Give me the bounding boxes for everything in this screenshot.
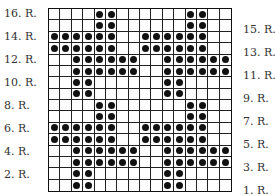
chart-cell-dot: [197, 9, 208, 20]
chart-cell-empty: [83, 100, 94, 111]
chart-cell-empty: [140, 157, 151, 168]
chart-cell-empty: [60, 20, 71, 31]
chart-cell-empty: [208, 20, 219, 31]
chart-cell-dot: [117, 157, 128, 168]
chart-cell-empty: [83, 20, 94, 31]
chart-cell-dot: [163, 32, 174, 43]
chart-cell-empty: [151, 157, 162, 168]
chart-cell-empty: [72, 9, 83, 20]
chart-cell-dot: [186, 157, 197, 168]
chart-cell-dot: [208, 146, 219, 157]
row-label: 9. R.: [243, 93, 269, 105]
chart-cell-empty: [129, 20, 140, 31]
chart-cell-dot: [174, 32, 185, 43]
chart-cell-dot: [220, 66, 231, 77]
row-label: 7. R.: [243, 116, 269, 128]
chart-cell-dot: [197, 146, 208, 157]
chart-cell-dot: [208, 55, 219, 66]
chart-cell-empty: [140, 180, 151, 191]
chart-cell-empty: [95, 180, 106, 191]
chart-cell-empty: [174, 9, 185, 20]
chart-cell-dot: [163, 157, 174, 168]
chart-cell-dot: [197, 43, 208, 54]
chart-cell-dot: [95, 55, 106, 66]
chart-cell-empty: [151, 55, 162, 66]
row-label: 4. R.: [4, 146, 30, 158]
chart-cell-empty: [163, 100, 174, 111]
chart-cell-dot: [163, 180, 174, 191]
chart-cell-dot: [197, 134, 208, 145]
chart-cell-dot: [197, 100, 208, 111]
chart-cell-dot: [106, 66, 117, 77]
chart-cell-empty: [117, 180, 128, 191]
chart-cell-dot: [163, 123, 174, 134]
chart-cell-dot: [174, 146, 185, 157]
chart-cell-dot: [95, 146, 106, 157]
chart-cell-empty: [49, 180, 60, 191]
chart-cell-empty: [208, 77, 219, 88]
chart-cell-dot: [163, 146, 174, 157]
chart-cell-empty: [60, 100, 71, 111]
chart-cell-empty: [220, 77, 231, 88]
chart-cell-empty: [220, 168, 231, 179]
chart-cell-dot: [72, 66, 83, 77]
chart-cell-empty: [129, 9, 140, 20]
chart-cell-dot: [151, 43, 162, 54]
chart-cell-dot: [95, 100, 106, 111]
chart-cell-dot: [72, 43, 83, 54]
chart-cell-empty: [129, 111, 140, 122]
chart-cell-empty: [117, 168, 128, 179]
chart-cell-dot: [106, 134, 117, 145]
knitting-chart-grid: [48, 8, 232, 192]
chart-cell-dot: [72, 77, 83, 88]
chart-cell-empty: [49, 77, 60, 88]
chart-cell-empty: [60, 111, 71, 122]
row-label: 5. R.: [243, 139, 269, 151]
chart-cell-empty: [95, 77, 106, 88]
chart-cell-empty: [174, 100, 185, 111]
chart-cell-dot: [186, 43, 197, 54]
chart-cell-dot: [174, 89, 185, 100]
chart-cell-empty: [83, 9, 94, 20]
chart-cell-empty: [163, 111, 174, 122]
chart-cell-empty: [140, 77, 151, 88]
chart-cell-dot: [174, 180, 185, 191]
chart-cell-empty: [140, 9, 151, 20]
chart-cell-empty: [151, 66, 162, 77]
chart-cell-dot: [197, 55, 208, 66]
chart-cell-dot: [72, 134, 83, 145]
chart-cell-empty: [174, 111, 185, 122]
chart-cell-empty: [197, 168, 208, 179]
chart-cell-empty: [49, 66, 60, 77]
chart-cell-dot: [83, 32, 94, 43]
chart-cell-dot: [220, 157, 231, 168]
chart-cell-empty: [208, 43, 219, 54]
chart-cell-dot: [95, 43, 106, 54]
chart-cell-dot: [60, 134, 71, 145]
chart-cell-empty: [220, 9, 231, 20]
chart-cell-dot: [117, 146, 128, 157]
chart-cell-empty: [140, 146, 151, 157]
chart-cell-dot: [106, 32, 117, 43]
chart-cell-dot: [151, 32, 162, 43]
chart-cell-empty: [208, 100, 219, 111]
chart-cell-dot: [83, 146, 94, 157]
row-label: 6. R.: [4, 123, 30, 135]
chart-cell-dot: [174, 134, 185, 145]
chart-cell-empty: [117, 134, 128, 145]
chart-cell-empty: [60, 180, 71, 191]
chart-cell-dot: [83, 55, 94, 66]
chart-cell-dot: [72, 32, 83, 43]
chart-cell-dot: [140, 32, 151, 43]
chart-cell-empty: [186, 89, 197, 100]
chart-cell-empty: [60, 157, 71, 168]
chart-cell-dot: [106, 100, 117, 111]
chart-cell-empty: [129, 123, 140, 134]
chart-cell-dot: [186, 111, 197, 122]
chart-cell-dot: [140, 134, 151, 145]
chart-cell-empty: [49, 20, 60, 31]
chart-cell-empty: [117, 77, 128, 88]
chart-cell-empty: [220, 123, 231, 134]
chart-cell-empty: [72, 100, 83, 111]
chart-cell-empty: [49, 89, 60, 100]
